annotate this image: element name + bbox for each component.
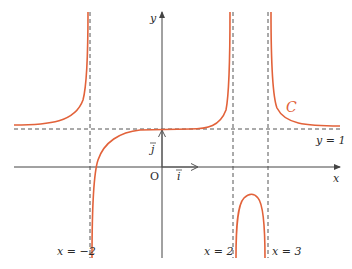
curve-branch-middle xyxy=(92,12,230,258)
vertical-asymptote-label-3: x = 3 xyxy=(272,245,301,258)
curve-branch-right xyxy=(271,12,340,126)
x-axis-label: x xyxy=(333,172,340,185)
function-graph: y x O i j C y = 1 x = −2 x = 2 x = 3 xyxy=(0,0,352,269)
curve-branch-hump xyxy=(236,194,265,258)
curve-label: C xyxy=(286,99,297,115)
y-axis-label: y xyxy=(149,12,157,25)
vertical-asymptote-label-neg2: x = −2 xyxy=(57,245,96,258)
unit-vector-i-label: i xyxy=(177,170,181,183)
vertical-asymptote-label-2: x = 2 xyxy=(204,245,233,258)
unit-vector-j-label: j xyxy=(148,143,155,156)
horizontal-asymptote-label: y = 1 xyxy=(315,134,345,147)
curve-branch-left xyxy=(14,12,88,125)
origin-label: O xyxy=(150,170,159,183)
